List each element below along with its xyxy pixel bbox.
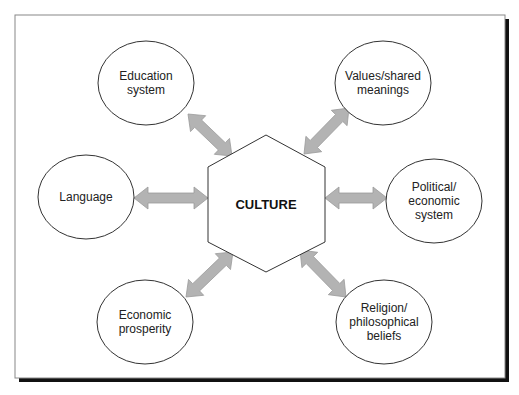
node-language: Language [38,155,134,239]
node-label-language: Language [59,190,113,204]
node-label-political: economic [408,194,459,208]
node-religion: Religion/philosophicalbeliefs [336,280,432,364]
node-label-education: Education [119,69,172,83]
node-label-education: system [127,83,165,97]
node-label-religion: beliefs [367,329,402,343]
node-values: Values/sharedmeanings [335,41,431,125]
culture-diagram: CULTURE EducationsystemValues/sharedmean… [0,0,519,395]
node-label-political: system [415,208,453,222]
node-prosperity: Economicprosperity [97,280,193,364]
node-education: Educationsystem [98,41,194,125]
node-label-values: meanings [357,83,409,97]
node-political: Political/economicsystem [386,159,482,243]
node-label-political: Political/ [412,180,457,194]
node-label-prosperity: Economic [119,308,172,322]
node-label-values: Values/shared [345,69,421,83]
center-label: CULTURE [235,197,296,212]
node-label-religion: Religion/ [361,301,408,315]
node-label-religion: philosophical [349,315,418,329]
node-label-prosperity: prosperity [119,322,172,336]
